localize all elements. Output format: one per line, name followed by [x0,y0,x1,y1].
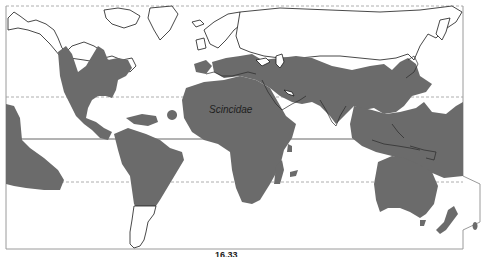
range-indian-ocean-island-1 [287,144,292,152]
northern-eurasia-outline [236,6,462,60]
southern-south-america-outline [130,206,156,248]
scincidae-range [6,46,478,234]
range-atlantic-island [167,110,177,120]
range-africa [182,76,296,204]
range-pacific-island-east [473,222,478,230]
range-south-america [114,128,184,210]
range-new-zealand [436,206,458,234]
range-iberia [194,60,212,74]
iceland-outline [192,20,204,27]
range-eastern-pacific [6,104,64,190]
range-north-america [58,46,132,140]
range-tasmania [420,220,426,226]
world-distribution-map [0,0,485,257]
greenland-outline [148,6,178,40]
range-indian-ocean-island-2 [290,170,298,177]
taxon-label: Scincidae [209,104,252,115]
british-isles-outline [196,38,206,50]
arctic-islands-outline [104,8,140,28]
figure-caption: 16.33 [215,250,238,257]
range-caribbean [126,114,158,126]
